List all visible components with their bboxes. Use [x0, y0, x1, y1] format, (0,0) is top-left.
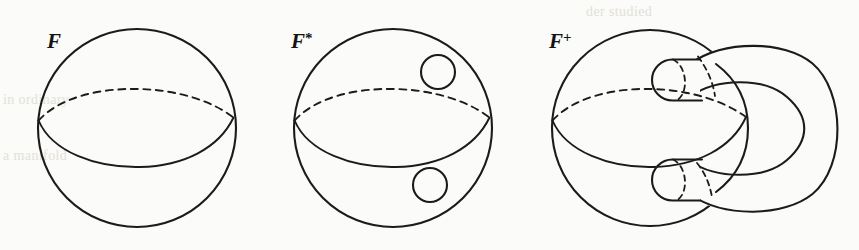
panel-f-star-label: F	[290, 29, 305, 53]
panel-f-plus-handle-fill	[690, 43, 843, 214]
panel-f-equator-front	[39, 118, 234, 168]
panel-f-plus-upper-tube-fill	[648, 60, 700, 100]
panel-f-plus-label-superscript: +	[563, 29, 572, 45]
panel-f-star-equator-front	[295, 118, 490, 168]
panel-f: F	[38, 29, 236, 227]
panel-f-star-sphere-outline	[294, 29, 492, 227]
panel-f-plus-label: F	[548, 29, 563, 53]
bleed-line-2: a manifold	[3, 148, 67, 163]
panel-f-star-label-superscript: *	[305, 30, 313, 46]
bleed-line-0: der studied	[586, 4, 652, 19]
figure-container: der studied in ordinary a manifold all b…	[0, 0, 859, 250]
panel-f-plus: F +	[548, 29, 843, 226]
panel-f-star-equator-back	[295, 89, 490, 121]
panel-f-sphere-outline	[38, 29, 236, 227]
panel-f-star: F *	[290, 29, 492, 227]
panel-f-label: F	[46, 29, 61, 53]
topology-figure-svg: der studied in ordinary a manifold all b…	[0, 0, 859, 250]
